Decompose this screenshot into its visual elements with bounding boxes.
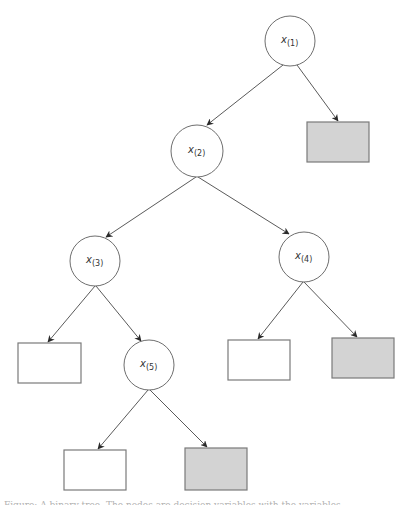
edge-x1-to-x2 [207,65,283,125]
edge-x2-to-x4 [198,177,289,234]
edge-x4-to-leaf-x4-right [304,282,357,337]
tree-node-x1: x(1) [265,16,315,66]
shaded-leaf-x4-right [332,338,394,378]
edge-x2-to-x3 [106,177,196,237]
shaded-leaf-x5-right [185,448,247,490]
shaded-leaf-x1-right [307,122,369,162]
edge-x5-to-leaf-x5-left [98,390,148,449]
tree-node-x5: x(5) [124,340,174,390]
tree-node-x3: x(3) [70,236,120,286]
nodes-layer: x(1)x(2)x(3)x(4)x(5) [70,16,329,390]
empty-leaf-x3-left [18,343,81,383]
figure-caption: Figure: A binary tree. The nodes are dec… [4,498,409,505]
empty-leaf-x5-left [64,450,126,490]
binary-tree-diagram: x(1)x(2)x(3)x(4)x(5) [0,0,409,505]
edge-x3-to-x5 [96,286,141,341]
edge-x3-to-leaf-x3-left [48,286,95,342]
edge-x1-to-leaf-x1-right [297,65,338,121]
leaves-layer [18,122,394,490]
tree-node-x2: x(2) [171,125,223,177]
edge-x4-to-leaf-x4-left [258,282,303,339]
empty-leaf-x4-left [228,340,290,380]
edge-x5-to-leaf-x5-right [150,390,207,447]
tree-node-x4: x(4) [279,232,329,282]
